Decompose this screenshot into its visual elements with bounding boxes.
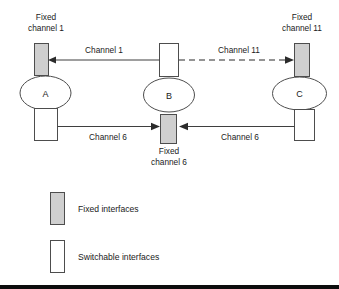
link-channel-6-left-arrowhead [151,123,160,130]
node-b-label: B [166,91,172,101]
diagram-figure: Fixed channel 1 A B Fixed channel 6 Fixe… [0,0,339,289]
node-a-label: A [42,89,48,99]
interface-switchable-c [295,110,315,141]
link-channel-1-arrowhead [48,57,56,64]
fixed-channel-1-caption-line2: channel 1 [28,23,64,33]
legend-swatch-switchable [51,241,65,273]
link-channel-6-right-arrowhead [179,123,188,130]
link-channel-6-left-label: Channel 6 [89,132,127,142]
network-diagram: Fixed channel 1 A B Fixed channel 6 Fixe… [0,0,339,289]
link-channel-11-label: Channel 11 [218,45,260,55]
interface-fixed-channel-6 [161,115,177,144]
bottom-rule [0,285,339,289]
interface-fixed-channel-1 [35,44,49,76]
node-c-label: C [296,89,303,99]
legend-label-fixed: Fixed interfaces [78,204,139,214]
fixed-channel-6-caption-line1: Fixed [159,146,180,156]
legend-swatch-fixed [51,193,65,225]
link-channel-11-arrowhead [285,56,294,63]
interface-switchable-b-upper [160,44,179,77]
fixed-channel-11-caption-line2: channel 11 [282,23,322,33]
fixed-channel-11-caption-line1: Fixed [292,12,313,22]
legend-label-switchable: Switchable interfaces [78,252,159,262]
interface-fixed-channel-11 [295,44,310,77]
link-channel-6-right-label: Channel 6 [221,132,259,142]
fixed-channel-1-caption-line1: Fixed [36,12,57,22]
fixed-channel-6-caption-line2: channel 6 [151,157,187,167]
link-channel-1-label: Channel 1 [85,45,123,55]
interface-switchable-a [35,109,58,141]
